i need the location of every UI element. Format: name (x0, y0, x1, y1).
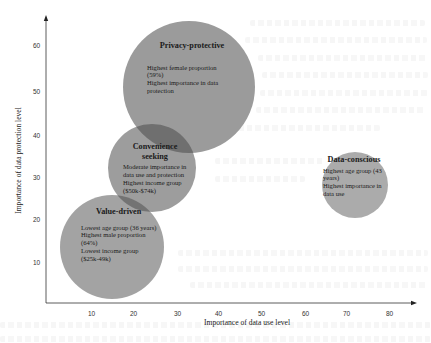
bubble-annotation: Highest income group (123, 179, 187, 187)
bubble-annotation: ($25k-49k) (81, 255, 163, 263)
y-tick-40: 40 (33, 132, 40, 139)
x-tick-40: 40 (215, 310, 222, 317)
bubble-annotation: ($50k-$74k) (123, 187, 187, 195)
x-tick-50: 50 (258, 310, 265, 317)
y-tick-20: 20 (33, 216, 40, 223)
x-axis-arrow-icon (411, 301, 417, 305)
bubble-label-value-driven: Value-driven Lowest age group (36 years)… (81, 207, 163, 263)
bubble-title: Value-driven (81, 207, 163, 217)
x-axis-label: Importance of data use level (204, 318, 290, 327)
bubble-title: Privacy-protective (147, 41, 237, 51)
bubble-label-privacy-protective: Privacy-protective Highest female propor… (147, 41, 237, 95)
bubble-title: Data-conscious (323, 155, 385, 165)
y-axis-label: Importance of data protection level (14, 102, 23, 220)
x-tick-10: 10 (88, 310, 95, 317)
bubble-annotation: Lowest age group (36 years) (81, 224, 163, 232)
bubble-label-data-conscious: Data-conscious Highest age group (43 yea… (323, 155, 385, 198)
bubble-title: Convenience (123, 142, 187, 152)
x-tick-60: 60 (302, 310, 309, 317)
bubble-annotation: Moderate importance in (123, 163, 187, 171)
bubble-annotation: (59%) (147, 71, 237, 79)
bubble-annotation: protection (147, 87, 237, 95)
bubble-title: seeking (123, 152, 187, 162)
bubble-annotation: Highest importance in data (147, 79, 237, 87)
y-tick-60: 60 (33, 42, 40, 49)
x-tick-30: 30 (174, 310, 181, 317)
bubble-annotation: (64%) (81, 239, 163, 247)
y-tick-50: 50 (33, 88, 40, 95)
x-tick-20: 20 (130, 310, 137, 317)
y-tick-30: 30 (33, 174, 40, 181)
bubble-annotation: data use and protection (123, 171, 187, 179)
y-axis-arrow-icon (44, 15, 48, 21)
bubble-label-convenience-seeking: Convenience seeking Moderate importance … (123, 142, 187, 194)
bubble-annotation: Highest age group (43 (323, 167, 385, 175)
bubble-annotation: years) (323, 174, 385, 182)
x-tick-80: 80 (386, 310, 393, 317)
y-tick-10: 10 (33, 259, 40, 266)
bubble-annotation: data use (323, 190, 385, 198)
bubble-annotation: Lowest income group (81, 247, 163, 255)
x-tick-70: 70 (343, 310, 350, 317)
bubble-annotation: Highest female proportion (147, 64, 237, 72)
bubble-annotation: Highest importance in (323, 182, 385, 190)
bubble-annotation: Highest male proportion (81, 231, 163, 239)
